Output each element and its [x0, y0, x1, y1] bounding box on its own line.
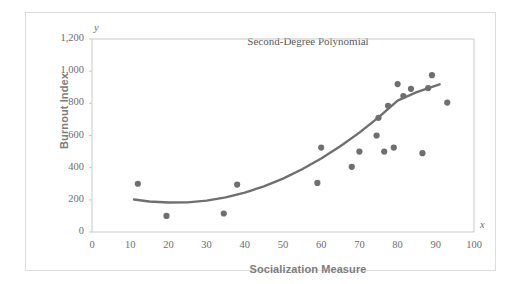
y-axis-variable-label: y — [94, 22, 99, 33]
data-point — [373, 132, 379, 138]
x-tick-label: 80 — [380, 239, 416, 250]
data-point — [234, 181, 240, 187]
data-point — [314, 180, 320, 186]
y-tick-label: 1,200 — [44, 32, 84, 43]
x-tick-label: 50 — [265, 239, 301, 250]
scatter-plot-svg — [26, 13, 497, 272]
fit-curve-path — [134, 84, 440, 202]
data-point — [444, 99, 450, 105]
data-point — [391, 144, 397, 150]
data-point — [318, 144, 324, 150]
x-tick-label: 0 — [74, 239, 110, 250]
x-axis-variable-label: x — [480, 219, 485, 230]
x-tick-label: 70 — [341, 239, 377, 250]
x-tick-label: 10 — [112, 239, 148, 250]
data-point — [385, 103, 391, 109]
regression-curve — [134, 84, 440, 202]
data-point — [381, 148, 387, 154]
data-point — [400, 93, 406, 99]
y-tick-label: 0 — [44, 225, 84, 236]
x-tick-label: 30 — [189, 239, 225, 250]
y-tick-label: 600 — [44, 129, 84, 140]
data-point — [375, 115, 381, 121]
figure-container: Second-Degree Polynomial Burnout Index S… — [0, 0, 522, 284]
data-point — [135, 181, 141, 187]
chart-outer-border: Second-Degree Polynomial Burnout Index S… — [25, 12, 496, 271]
y-tick-label: 800 — [44, 96, 84, 107]
data-point — [419, 150, 425, 156]
x-tick-label: 60 — [303, 239, 339, 250]
data-point — [163, 213, 169, 219]
data-point — [356, 148, 362, 154]
data-point — [221, 210, 227, 216]
y-tick-label: 1,000 — [44, 64, 84, 75]
x-tick-label: 90 — [418, 239, 454, 250]
data-points — [135, 72, 451, 219]
data-point — [408, 86, 414, 92]
data-point — [429, 72, 435, 78]
x-tick-label: 100 — [456, 239, 492, 250]
y-tick-label: 400 — [44, 161, 84, 172]
y-tick-label: 200 — [44, 193, 84, 204]
data-point — [349, 164, 355, 170]
data-point — [425, 85, 431, 91]
data-point — [395, 81, 401, 87]
x-tick-label: 40 — [227, 239, 263, 250]
x-tick-label: 20 — [150, 239, 186, 250]
plot-frame — [89, 39, 474, 232]
